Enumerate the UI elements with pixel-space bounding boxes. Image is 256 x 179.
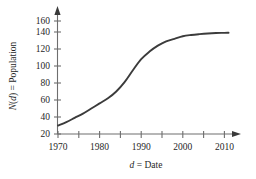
x-axis-title: d = Date: [130, 160, 163, 170]
x-tick-label-0: 1970: [49, 142, 68, 152]
y-tick-label-7: 160: [36, 16, 51, 26]
x-axis-title-equals: =: [134, 160, 144, 170]
x-axis-title-noun: Date: [144, 160, 162, 170]
population-growth-chart: 20 40 60 80 100 120 140 160 1970 1980 19…: [0, 0, 256, 179]
y-tick-label-3: 80: [41, 78, 51, 88]
y-tick-label-1: 40: [41, 112, 51, 122]
y-tick-label-6: 140: [36, 27, 51, 37]
x-axis-tick-labels: 1970 1980 1990 2000 2010: [49, 142, 235, 152]
y-axis-tick-labels: 20 40 60 80 100 120 140 160: [36, 16, 51, 139]
y-tick-label-4: 100: [36, 61, 51, 71]
y-axis-title: N(d) = Population: [8, 41, 19, 111]
y-tick-label-2: 60: [41, 95, 51, 105]
x-tick-label-1: 1980: [90, 142, 109, 152]
x-tick-label-3: 2000: [173, 142, 192, 152]
x-axis-arrow-icon: [232, 131, 241, 137]
population-curve: [58, 33, 229, 126]
y-axis-title-equals: =: [8, 83, 18, 93]
y-axis-title-noun: Population: [8, 41, 18, 82]
y-axis-arrow-icon: [54, 6, 60, 15]
x-tick-label-2: 1990: [132, 142, 151, 152]
x-tick-label-4: 2010: [215, 142, 234, 152]
y-tick-label-5: 120: [36, 44, 51, 54]
y-tick-label-0: 20: [41, 129, 51, 139]
chart-canvas: 20 40 60 80 100 120 140 160 1970 1980 19…: [0, 0, 256, 179]
